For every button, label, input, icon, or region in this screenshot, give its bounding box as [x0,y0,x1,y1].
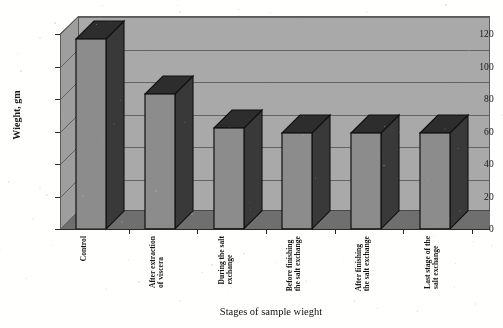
scan-speck [17,53,19,55]
y-axis-tick-label: 20 [484,192,494,202]
scan-speck [8,181,10,183]
x-axis [60,229,490,230]
category-label: Control [80,236,88,261]
scan-speck [454,286,455,287]
y-axis-tick-label: 120 [479,29,494,39]
scan-speck [354,300,356,302]
scan-speck [179,300,181,302]
scan-speck [46,194,48,196]
y-axis-tick [55,164,60,165]
x-axis-tick [129,229,130,234]
y-axis-tick [55,132,60,133]
scan-speck [32,218,34,220]
scan-speck [239,15,240,16]
scan-speck [128,260,129,261]
scan-speck [491,245,493,247]
x-axis-tick [403,229,404,234]
scan-speck [39,187,41,189]
bar [351,115,381,229]
y-axis-title-text: Wieght, gm [11,90,22,139]
scan-speck [343,258,344,259]
x-axis-tick [335,229,336,234]
category-label: After extraction of viscera [149,236,166,288]
scan-speck [227,290,228,291]
scan-speck [0,249,1,250]
y-axis [55,16,60,230]
x-axis-tick [266,229,267,234]
x-axis-tick [197,229,198,234]
scan-speck [179,11,181,13]
y-axis-tick [55,34,60,35]
y-axis-tick [55,99,60,100]
scan-speck [445,4,446,5]
bar [282,115,312,229]
scan-speck [305,280,307,282]
y-axis-title: Wieght, gm [6,60,20,170]
y-axis-tick-label: 60 [484,127,494,137]
scan-speck [474,303,476,305]
scan-speck [20,70,22,72]
gridline [79,82,489,83]
x-axis-title-text: Stages of sample wieght [220,306,322,317]
scan-speck [25,278,26,279]
scan-speck [211,264,213,266]
bar [145,76,175,229]
scan-speck [39,37,41,39]
scan-speck [138,281,140,283]
y-axis-tick-label: 80 [484,94,494,104]
y-axis-tick [55,197,60,198]
scan-speck [490,10,492,12]
x-axis-tick [472,229,473,234]
scan-speck [101,5,103,7]
bar [76,21,106,229]
category-label: Before finishing the salt exchange [286,236,303,291]
gridline [79,50,489,51]
scan-speck [2,223,3,224]
scan-speck [177,5,178,6]
y-axis-tick [55,67,60,68]
scan-speck [51,245,52,246]
scan-speck [472,241,474,243]
scan-speck [105,288,107,290]
category-label: Last stage of the salt exchange [424,236,441,289]
scan-speck [468,284,469,285]
scan-speck [269,12,271,14]
y-axis-tick-label: 40 [484,159,494,169]
scan-speck [243,253,245,255]
category-label: During the salt exchange [218,236,235,285]
gridline [79,17,489,18]
scan-speck [24,258,25,259]
scan-speck [366,11,368,13]
scan-speck [201,272,202,273]
x-axis-title: Stages of sample wieght [0,306,502,317]
category-label: After finishing the salt exchange [355,236,372,291]
bar [214,110,244,229]
plot-left-wall [60,16,78,229]
bar [420,115,450,229]
scan-speck [455,263,457,265]
y-axis-tick-label: 100 [479,62,494,72]
